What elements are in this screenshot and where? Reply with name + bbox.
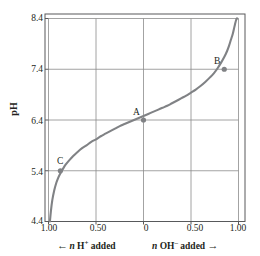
point-label-c: C: [57, 157, 63, 167]
x-axis-caption-acid: ← n H+ added: [57, 240, 116, 252]
plot-frame: [45, 14, 245, 222]
x-tick-label-4: 1.00: [223, 224, 253, 234]
x-caption-base-verb: added: [180, 241, 205, 251]
x-tick-label-3: 0.50: [180, 224, 210, 234]
y-axis-title: pH: [9, 97, 19, 121]
annotation-marker-c: [58, 168, 63, 173]
point-label-a: A: [133, 108, 140, 118]
y-tick-label-2: 6.4: [21, 117, 43, 127]
y-tick-label-1: 7.4: [21, 65, 43, 75]
annotation-marker-a: [141, 117, 146, 122]
y-tick-label-0: 8.4: [21, 14, 43, 24]
point-label-b: B: [214, 57, 220, 67]
x-caption-base-species: OH: [160, 241, 175, 251]
x-tick-label-1: 0.50: [83, 224, 113, 234]
x-tick-label-0: 1.00: [34, 224, 64, 234]
x-tick-label-2: 0: [131, 224, 161, 234]
x-caption-acid-verb: added: [91, 241, 116, 251]
plot-frame-rect: [45, 14, 245, 222]
right-arrow-icon: →: [208, 239, 218, 251]
left-arrow-icon: ←: [57, 239, 67, 251]
annotation-marker-b: [222, 67, 227, 72]
y-tick-label-3: 5.4: [21, 168, 43, 178]
chart-figure: 8.4 7.4 6.4 5.4 4.4 pH 1.00 0.50 0 0.50 …: [0, 0, 260, 256]
x-axis-caption-base: n OH– added →: [152, 240, 218, 252]
